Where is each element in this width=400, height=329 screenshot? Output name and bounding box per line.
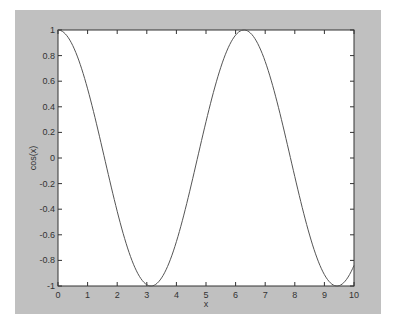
x-tick-label: 3 bbox=[144, 290, 149, 300]
y-tick-label: 0 bbox=[50, 153, 55, 163]
y-tick-label: -0.8 bbox=[39, 255, 55, 265]
x-tick-label: 1 bbox=[85, 290, 90, 300]
x-tick-label: 7 bbox=[263, 290, 268, 300]
x-tick-label: 4 bbox=[174, 290, 179, 300]
x-axis-label: x bbox=[204, 299, 209, 309]
y-tick-label: 0.4 bbox=[42, 102, 55, 112]
x-tick-label: 9 bbox=[322, 290, 327, 300]
y-tick-label: -0.4 bbox=[39, 204, 55, 214]
y-axis-label: cos(x) bbox=[28, 146, 38, 171]
chart: 012345678910 10.80.60.40.20-0.2-0.4-0.6-… bbox=[0, 0, 400, 329]
plot-area bbox=[58, 30, 354, 286]
x-tick-label: 2 bbox=[115, 290, 120, 300]
y-tick-label: -1 bbox=[47, 281, 55, 291]
x-tick-label: 6 bbox=[233, 290, 238, 300]
y-tick-label: -0.6 bbox=[39, 230, 55, 240]
x-tick-label: 8 bbox=[292, 290, 297, 300]
y-tick-label: 0.8 bbox=[42, 51, 55, 61]
x-tick-label: 10 bbox=[349, 290, 359, 300]
y-tick-label: 0.6 bbox=[42, 76, 55, 86]
y-tick-label: 1 bbox=[50, 25, 55, 35]
x-tick-label: 0 bbox=[55, 290, 60, 300]
y-tick-label: 0.2 bbox=[42, 127, 55, 137]
y-tick-label: -0.2 bbox=[39, 179, 55, 189]
